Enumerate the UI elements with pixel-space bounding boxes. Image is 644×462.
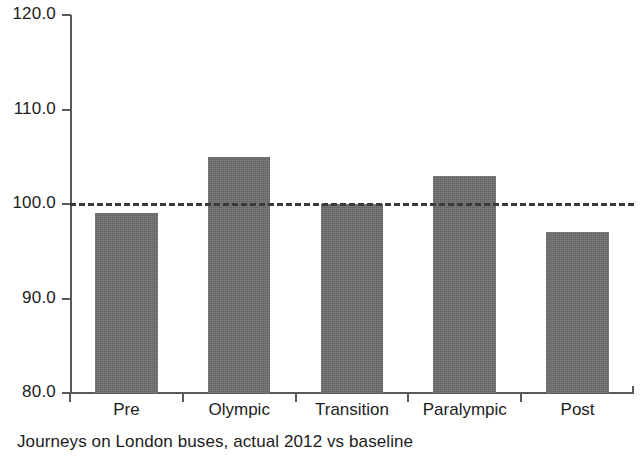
bar-transition [321, 204, 384, 393]
bar-paralympic [433, 176, 496, 393]
chart-caption: Journeys on London buses, actual 2012 vs… [17, 432, 413, 452]
bar-olympic [208, 157, 271, 393]
y-axis-tick [62, 14, 71, 16]
y-axis-tick [62, 109, 71, 111]
x-axis-label-post: Post [521, 400, 634, 420]
x-axis-end-cap [632, 386, 634, 394]
y-axis-tick-label: 80.0 [22, 382, 56, 402]
bar-pre [95, 213, 158, 393]
x-axis-label-transition: Transition [296, 400, 409, 420]
baseline-reference-line [70, 203, 634, 206]
chart-figure: 80.090.0100.0110.0120.0 PreOlympicTransi… [0, 0, 644, 462]
y-axis-tick [62, 298, 71, 300]
x-axis-label-paralympic: Paralympic [408, 400, 521, 420]
plot-area: 80.090.0100.0110.0120.0 PreOlympicTransi… [0, 0, 644, 400]
bar-post [546, 232, 609, 393]
x-axis-label-olympic: Olympic [183, 400, 296, 420]
x-axis-label-pre: Pre [70, 400, 183, 420]
y-axis-tick-label: 90.0 [22, 288, 56, 308]
y-axis-tick-label: 100.0 [12, 193, 56, 213]
y-axis-tick-label: 110.0 [14, 99, 56, 119]
y-axis-tick-label: 120.0 [12, 4, 56, 24]
